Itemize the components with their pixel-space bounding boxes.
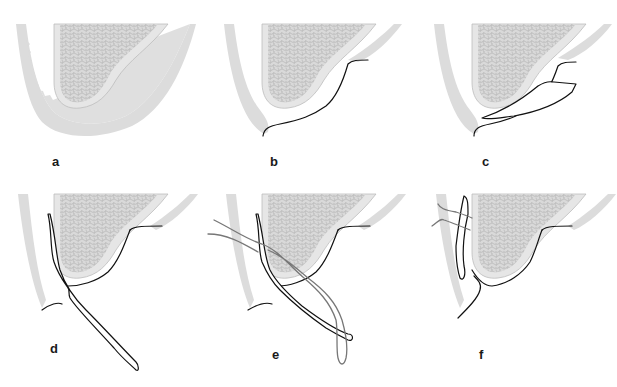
panel-a: a bbox=[16, 24, 196, 169]
panel-d: d bbox=[18, 194, 198, 370]
panel-label-a: a bbox=[52, 154, 60, 169]
alveolar-bone bbox=[54, 194, 168, 278]
alveolar-bone bbox=[472, 194, 586, 278]
surgical-flap-diagram: a b c d e bbox=[0, 0, 617, 387]
panel-b: b bbox=[224, 24, 402, 169]
panel-label-d: d bbox=[50, 341, 58, 356]
alveolar-bone bbox=[262, 194, 376, 278]
panel-label-e: e bbox=[272, 347, 279, 362]
alveolar-bone bbox=[262, 24, 376, 108]
panel-f: f bbox=[432, 194, 616, 362]
panel-e: e bbox=[208, 194, 406, 364]
gingiva-tissue bbox=[226, 194, 254, 308]
sutured-flap bbox=[456, 196, 468, 279]
panel-label-f: f bbox=[479, 347, 484, 362]
panel-c: c bbox=[434, 24, 612, 169]
gingiva-tissue bbox=[18, 194, 46, 308]
panel-label-c: c bbox=[482, 154, 489, 169]
panel-label-b: b bbox=[270, 154, 278, 169]
